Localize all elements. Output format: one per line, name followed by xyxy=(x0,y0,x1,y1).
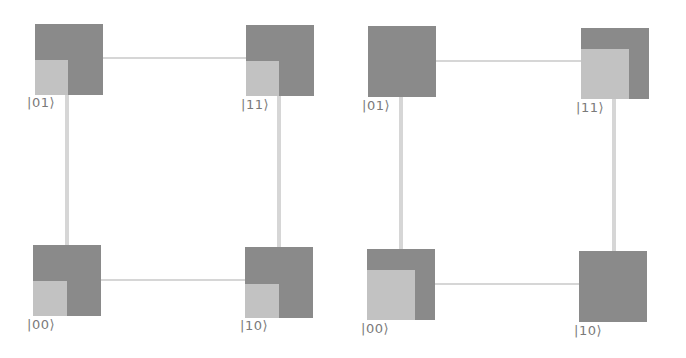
edge-00-10 xyxy=(435,283,579,285)
node-label: |01⟩ xyxy=(362,98,390,113)
node-11 xyxy=(581,28,649,99)
node-label: |11⟩ xyxy=(576,100,604,115)
edge-11-10 xyxy=(612,98,616,251)
node-00 xyxy=(367,249,435,320)
amplitude-fill xyxy=(367,270,415,320)
amplitude-fill xyxy=(581,49,629,99)
edge-01-00 xyxy=(399,97,403,249)
node-01 xyxy=(368,26,436,97)
node-label: |00⟩ xyxy=(361,321,389,336)
node-10 xyxy=(579,251,647,322)
right-diagram: |01⟩ |11⟩ |00⟩ |10⟩ xyxy=(0,0,343,358)
node-label: |10⟩ xyxy=(574,323,602,338)
edge-01-11 xyxy=(436,60,581,62)
